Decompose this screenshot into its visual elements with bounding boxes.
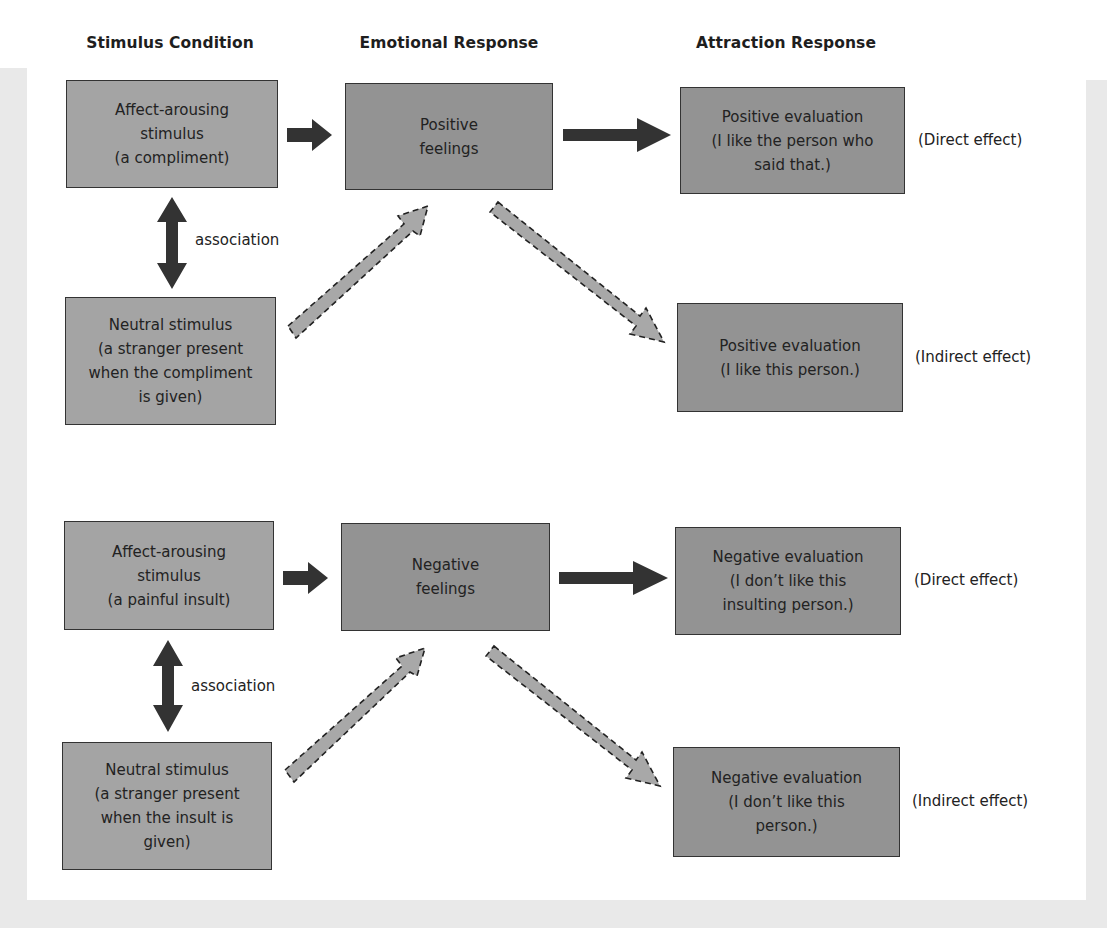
box-negative-feelings: Negative feelings	[341, 523, 550, 631]
label-direct-effect: (Direct effect)	[914, 571, 1018, 589]
box-positive-direct-evaluation: Positive evaluation (I like the person w…	[680, 87, 905, 194]
dashed-arrow-up-right-icon	[288, 206, 428, 338]
box-text: Positive evaluation (I like this person.…	[719, 334, 861, 382]
solid-arrow-right-icon	[287, 119, 332, 151]
double-arrow-vertical-icon	[157, 197, 187, 289]
box-negative-indirect-evaluation: Negative evaluation (I don’t like this p…	[673, 747, 900, 857]
background-frame-right	[1086, 80, 1107, 928]
label-direct-effect: (Direct effect)	[918, 131, 1022, 149]
dashed-arrow-down-right-icon	[486, 646, 660, 786]
box-positive-neutral-stimulus: Neutral stimulus (a stranger present whe…	[65, 297, 276, 425]
box-positive-affect-stimulus: Affect-arousing stimulus (a compliment)	[66, 80, 278, 188]
header-attraction-response: Attraction Response	[696, 34, 876, 52]
label-indirect-effect: (Indirect effect)	[912, 792, 1028, 810]
header-emotional-response: Emotional Response	[360, 34, 539, 52]
box-text: Positive feelings	[420, 113, 479, 161]
box-text: Affect-arousing stimulus (a compliment)	[115, 98, 230, 170]
box-text: Neutral stimulus (a stranger present whe…	[89, 313, 253, 409]
box-negative-neutral-stimulus: Neutral stimulus (a stranger present whe…	[62, 742, 272, 870]
box-text: Negative evaluation (I don’t like this p…	[711, 766, 862, 838]
solid-arrow-right-icon	[283, 562, 328, 594]
box-text: Negative evaluation (I don’t like this i…	[713, 545, 864, 617]
label-indirect-effect: (Indirect effect)	[915, 348, 1031, 366]
box-text: Affect-arousing stimulus (a painful insu…	[108, 540, 231, 612]
box-positive-indirect-evaluation: Positive evaluation (I like this person.…	[677, 303, 903, 412]
dashed-arrow-down-right-icon	[490, 202, 664, 342]
double-arrow-vertical-icon	[153, 640, 183, 732]
box-negative-affect-stimulus: Affect-arousing stimulus (a painful insu…	[64, 521, 274, 630]
label-association: association	[195, 231, 279, 249]
header-stimulus-condition: Stimulus Condition	[86, 34, 254, 52]
solid-arrow-right-icon	[563, 118, 671, 152]
box-text: Positive evaluation (I like the person w…	[711, 105, 873, 177]
box-text: Negative feelings	[412, 553, 479, 601]
solid-arrow-right-icon	[559, 561, 668, 595]
label-association: association	[191, 677, 275, 695]
box-negative-direct-evaluation: Negative evaluation (I don’t like this i…	[675, 527, 901, 635]
dashed-arrow-up-right-icon	[285, 648, 425, 782]
background-frame-left	[0, 68, 27, 928]
background-frame-bottom	[0, 900, 1107, 928]
box-text: Neutral stimulus (a stranger present whe…	[94, 758, 239, 854]
box-positive-feelings: Positive feelings	[345, 83, 553, 190]
